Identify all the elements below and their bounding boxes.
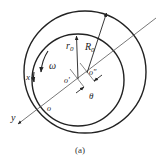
o-prime-label: o' (64, 76, 70, 85)
omega-rotation-arrow (41, 51, 48, 72)
figure-caption: (a) (75, 145, 85, 155)
x-axis-label: x (25, 72, 30, 82)
offset-arrow-left (76, 87, 84, 93)
dimension-line-o-prime (70, 69, 84, 87)
outer-circle (24, 11, 146, 133)
inner-circle (32, 34, 124, 126)
R0-label: R0 (84, 41, 95, 54)
y-axis-label: y (10, 112, 16, 123)
y-axis-line (18, 18, 156, 124)
x-direction-arrow (34, 72, 35, 82)
omega-label: ω (49, 60, 56, 71)
r0-label: r0 (66, 40, 74, 53)
r0-radius-arrow (77, 36, 79, 79)
offset-label: θ (89, 91, 94, 101)
origin-label: o (47, 104, 51, 113)
bearing-journal-diagram: r0 R0 ω x y o o' o" θ (a) (0, 0, 168, 161)
o-double-prime-label: o" (89, 68, 97, 77)
